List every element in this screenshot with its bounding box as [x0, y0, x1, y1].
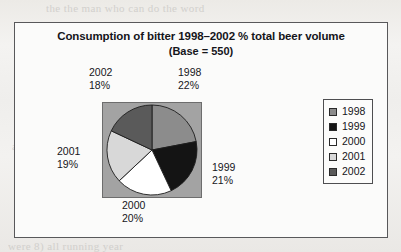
slice-label-1999-percent: 21%: [212, 174, 235, 187]
scan-bleed-line: were 8) all running year: [8, 240, 123, 252]
slice-label-1999: 1999 21%: [212, 161, 235, 186]
legend-swatch-icon-1998: [329, 108, 337, 116]
legend-label-2002: 2002: [342, 166, 365, 177]
legend-item-2000[interactable]: 2000: [329, 134, 367, 149]
scan-bleed-line: the the man who can do the word: [46, 2, 205, 14]
slice-label-2002-percent: 18%: [89, 79, 112, 92]
pie-plot-area: [102, 102, 202, 198]
chart-title: Consumption of bitter 1998–2002 % total …: [15, 30, 387, 42]
legend-label-2000: 2000: [342, 136, 365, 147]
slice-label-2001-percent: 19%: [57, 158, 80, 171]
legend-label-1998: 1998: [342, 106, 365, 117]
legend-item-1998[interactable]: 1998: [329, 104, 367, 119]
pie-slices: [107, 105, 197, 195]
legend-label-1999: 1999: [342, 121, 365, 132]
slice-label-2000: 2000 20%: [122, 199, 145, 224]
slice-label-2000-percent: 20%: [122, 212, 145, 225]
legend-item-2001[interactable]: 2001: [329, 149, 367, 164]
chart-subtitle: (Base = 550): [15, 45, 387, 57]
legend-item-1999[interactable]: 1999: [329, 119, 367, 134]
legend-swatch-icon-1999: [329, 123, 337, 131]
slice-label-1999-year: 1999: [212, 161, 235, 174]
slice-label-2001: 2001 19%: [57, 145, 80, 170]
chart-figure-frame: Consumption of bitter 1998–2002 % total …: [14, 22, 388, 238]
slice-label-2001-year: 2001: [57, 145, 80, 158]
pie-chart-svg: [103, 103, 201, 197]
slice-label-1998-percent: 22%: [178, 79, 201, 92]
legend-swatch-icon-2001: [329, 153, 337, 161]
slice-label-2000-year: 2000: [122, 199, 145, 212]
chart-legend: 1998 1999 2000 2001 2002: [323, 99, 373, 184]
slice-label-1998: 1998 22%: [178, 66, 201, 91]
legend-item-2002[interactable]: 2002: [329, 164, 367, 179]
slice-label-2002: 2002 18%: [89, 66, 112, 91]
legend-swatch-icon-2000: [329, 138, 337, 146]
legend-swatch-icon-2002: [329, 168, 337, 176]
slice-label-1998-year: 1998: [178, 66, 201, 79]
legend-label-2001: 2001: [342, 151, 365, 162]
slice-label-2002-year: 2002: [89, 66, 112, 79]
